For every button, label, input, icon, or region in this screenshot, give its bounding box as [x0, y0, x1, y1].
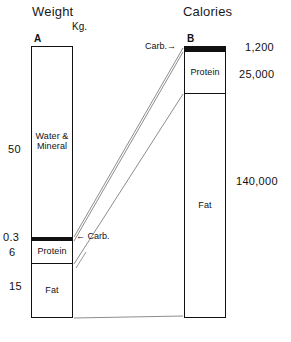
bar-a-segment-protein-label: Protein	[37, 247, 66, 256]
bar-b-value-protein: 25,000	[239, 69, 274, 80]
bar-a-value-carb: 0.3	[3, 232, 19, 243]
bar-a-segment-water-mineral-label: Water & Mineral	[36, 132, 69, 151]
carb-projection-line-upper	[74, 48, 183, 237]
bar-b-segment-protein-label: Protein	[190, 68, 219, 77]
bar-b-value-fat: 140,000	[236, 176, 278, 187]
carb-projection-line-lower	[74, 52, 183, 241]
bar-a-segment-fat: Fat	[31, 264, 73, 318]
baseline-connector	[74, 316, 183, 318]
bar-a-segment-protein: Protein	[31, 241, 73, 264]
bar-b-segment-protein: Protein	[184, 52, 226, 94]
carb-callout-stub	[76, 252, 86, 268]
bar-a-segment-fat-label: Fat	[45, 286, 58, 295]
bar-a-segment-water-mineral: Water & Mineral	[31, 46, 73, 237]
bar-b-carb-callout: Carb.→	[145, 42, 176, 51]
bar-b-segment-fat: Fat	[184, 94, 226, 318]
bar-a-value-water-mineral: 50	[8, 144, 21, 155]
bar-b-segment-fat-label: Fat	[198, 201, 211, 210]
bar-a-value-fat: 15	[9, 281, 22, 292]
body-composition-figure: Weight Kg. Calories A B Water & Mineral …	[0, 0, 291, 342]
bar-a-carb-callout: ← Carb.	[76, 232, 110, 241]
bar-a-value-protein: 6	[9, 247, 15, 258]
bar-b-value-carb: 1,200	[245, 42, 274, 53]
